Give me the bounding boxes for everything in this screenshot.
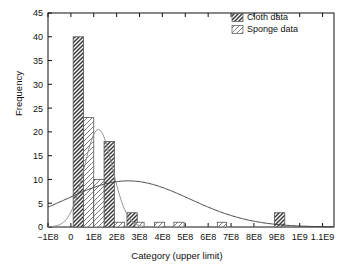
chart-figure: 051015202530354045 −1E801E82E83E84E85E86… xyxy=(0,0,354,272)
y-tick-label-6: 30 xyxy=(33,80,43,90)
bar-1-6 xyxy=(217,222,226,227)
y-axis-ticks: 051015202530354045 xyxy=(33,8,52,232)
chart-legend: Cloth dataSponge data xyxy=(232,12,298,34)
x-tick-label-10: 9E8 xyxy=(269,232,285,242)
bars-layer xyxy=(73,37,285,227)
x-axis-label: Category (upper limit) xyxy=(0,250,354,261)
y-tick-label-3: 15 xyxy=(33,151,43,161)
bar-1-2 xyxy=(114,222,124,227)
y-tick-label-4: 20 xyxy=(33,127,43,137)
y-axis-label: Frequency xyxy=(13,54,24,134)
x-tick-label-1: 0 xyxy=(68,232,73,242)
bar-0-0 xyxy=(73,37,83,227)
legend-label-1: Sponge data xyxy=(247,24,298,34)
y-tick-label-2: 10 xyxy=(33,175,43,185)
y-tick-label-1: 5 xyxy=(38,199,43,209)
x-tick-label-9: 8E8 xyxy=(246,232,262,242)
y-tick-label-9: 45 xyxy=(33,8,43,18)
x-tick-label-5: 4E8 xyxy=(154,232,170,242)
legend-swatch-1 xyxy=(232,26,243,34)
y-tick-label-8: 40 xyxy=(33,32,43,42)
x-tick-label-11: 1E9 xyxy=(292,232,308,242)
bar-1-5 xyxy=(174,222,184,227)
bar-1-0 xyxy=(83,118,93,227)
bar-1-4 xyxy=(154,222,164,227)
x-tick-label-6: 5E8 xyxy=(177,232,193,242)
legend-swatch-0 xyxy=(232,14,243,22)
x-tick-label-4: 3E8 xyxy=(132,232,148,242)
y-tick-label-5: 25 xyxy=(33,104,43,114)
x-tick-label-2: 1E8 xyxy=(86,232,102,242)
x-tick-label-0: −1E8 xyxy=(37,232,58,242)
x-tick-label-8: 7E8 xyxy=(223,232,239,242)
x-tick-label-7: 6E8 xyxy=(200,232,216,242)
y-tick-label-0: 0 xyxy=(38,222,43,232)
y-tick-label-7: 35 xyxy=(33,56,43,66)
x-tick-label-3: 2E8 xyxy=(109,232,125,242)
histogram-plot: 051015202530354045 −1E801E82E83E84E85E86… xyxy=(0,0,354,272)
x-tick-label-12: 1.1E9 xyxy=(311,232,335,242)
legend-label-0: Cloth data xyxy=(247,12,288,22)
